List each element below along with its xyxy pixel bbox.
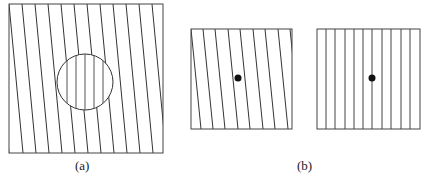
panel-b-right-frame [317, 29, 420, 129]
panel-b-right [317, 29, 420, 129]
center-dot [369, 75, 376, 82]
center-dot [235, 75, 242, 82]
panel-b-left [191, 29, 300, 129]
tilted-line-pattern [191, 29, 300, 129]
vertical-line-pattern [326, 29, 410, 129]
panel-b-label: (b) [297, 158, 312, 174]
panel-a-label: (a) [75, 158, 89, 174]
panel-a [0, 4, 166, 153]
diagram-canvas [0, 0, 425, 181]
